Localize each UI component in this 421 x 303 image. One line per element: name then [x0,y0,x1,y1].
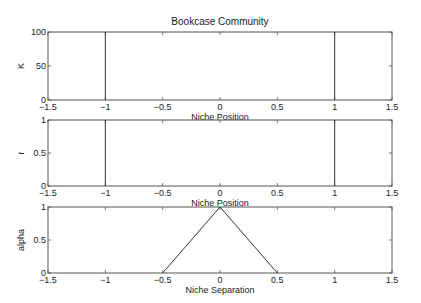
x-tick-label: 1.5 [386,102,399,112]
y-axis-label: alpha [16,229,26,251]
y-tick-label: 50 [36,61,46,71]
x-tick-label: 1 [332,275,337,285]
x-tick-label: −0.5 [154,102,172,112]
y-tick-label: 100 [31,27,46,37]
x-tick-label: 0.5 [271,275,284,285]
x-tick-label: 0.5 [271,188,284,198]
axes-group: −1.5−1−0.500.511.5050100Niche PositionK−… [16,27,398,295]
x-tick-label: 0 [217,102,222,112]
axes-box [48,207,392,273]
x-tick-label: 0 [217,275,222,285]
x-axis-label: Niche Separation [185,285,254,295]
y-tick-label: 0 [41,268,46,278]
y-tick-label: 0.5 [33,148,46,158]
y-axis-label: K [16,63,26,69]
x-tick-label: −1 [100,275,110,285]
chart-title: Bookcase Community [171,16,268,27]
x-tick-label: 0.5 [271,102,284,112]
x-tick-label: 1 [332,188,337,198]
x-tick-label: −0.5 [154,188,172,198]
y-axis-label: r [16,152,26,155]
x-tick-label: 1.5 [386,188,399,198]
y-tick-label: 0 [41,181,46,191]
y-tick-label: 1 [41,115,46,125]
subplot-alpha: −1.5−1−0.500.511.500.51Niche Separationa… [16,202,398,295]
x-tick-label: 0 [217,188,222,198]
x-tick-label: 1.5 [386,275,399,285]
y-tick-label: 1 [41,202,46,212]
y-tick-label: 0 [41,95,46,105]
axes-box [48,32,392,100]
subplot-r: −1.5−1−0.500.511.500.51Niche Positionr [16,115,398,208]
data-line [163,207,278,273]
chart-canvas: Bookcase Community −1.5−1−0.500.511.5050… [0,0,421,303]
x-tick-label: 1 [332,102,337,112]
x-tick-label: −1 [100,102,110,112]
subplot-K: −1.5−1−0.500.511.5050100Niche PositionK [16,27,398,122]
x-tick-label: −1 [100,188,110,198]
axes-box [48,120,392,186]
y-tick-label: 0.5 [33,235,46,245]
figure: Bookcase Community −1.5−1−0.500.511.5050… [0,0,421,303]
x-tick-label: −0.5 [154,275,172,285]
